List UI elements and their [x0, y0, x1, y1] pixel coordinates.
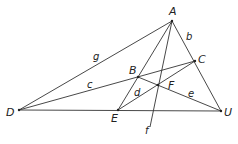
segment-e-BU [138, 77, 221, 111]
point-F [157, 84, 159, 86]
label-D: D [6, 106, 14, 119]
segment-AE [118, 21, 172, 110]
label-c: c [87, 79, 93, 90]
segment-g-DA [19, 21, 172, 110]
label-d: d [134, 87, 141, 98]
point-B [137, 76, 139, 78]
label-g: g [93, 51, 99, 62]
label-A: A [168, 5, 177, 18]
label-F: F [168, 79, 175, 92]
point-E [117, 109, 119, 111]
label-U: U [224, 106, 232, 119]
point-D [18, 109, 20, 111]
point-A [171, 20, 173, 22]
geometry-diagram: A B C D E F U g b c d e f [0, 0, 238, 144]
label-b: b [186, 31, 192, 42]
label-C: C [198, 53, 206, 66]
point-C [194, 60, 196, 62]
label-E: E [111, 112, 118, 125]
segment-b-AU [172, 21, 221, 111]
point-U [220, 110, 222, 112]
label-f: f [145, 125, 150, 136]
label-B: B [129, 64, 137, 77]
label-e: e [188, 88, 194, 99]
segment-DU [19, 110, 221, 111]
